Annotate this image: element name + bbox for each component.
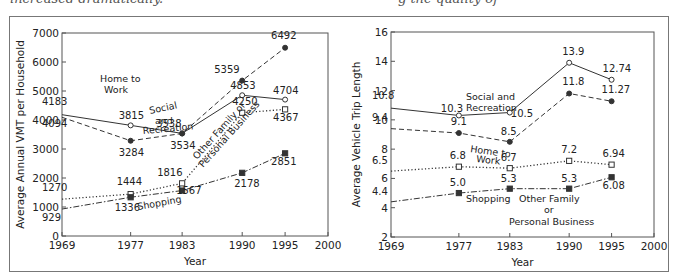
data-marker [456,164,461,169]
x-tick-label: 1990 [229,239,256,251]
data-value-label: 4183 [42,96,67,107]
data-marker [567,60,572,65]
x-tick-label: 2000 [641,240,668,252]
x-tick-label: 1969 [49,239,76,251]
y-tick-label: 3000 [32,143,59,155]
x-tick-label: 1977 [446,240,473,252]
data-marker [567,158,572,163]
data-value-label: 5.3 [501,173,517,184]
chart-vehicle-trip-length: 246810121416196919771983199019952000Year… [350,26,667,268]
data-marker [456,190,461,195]
y-axis-title: Average Annual VMT per Household [14,40,26,229]
data-marker [507,166,512,171]
label-recreation: Recreation [466,102,517,113]
data-value-label: 3534 [170,140,195,151]
data-value-label: 2851 [271,156,296,167]
data-value-label: 9.4 [372,112,388,123]
data-marker [128,123,133,128]
data-marker [609,162,614,167]
data-marker [567,186,572,191]
data-value-label: 1816 [157,167,182,178]
data-value-label: 11.27 [602,84,631,95]
data-value-label: 1270 [42,182,67,193]
data-marker [283,45,288,50]
data-marker [128,138,133,143]
data-value-label: 10.3 [441,103,463,114]
data-value-label: 4094 [42,118,67,129]
data-value-label: 2178 [234,178,259,189]
data-marker [283,97,288,102]
data-value-label: 5.3 [561,173,577,184]
y-tick-label: 16 [375,26,389,38]
x-tick-label: 2000 [315,239,342,251]
y-tick-label: 4 [381,202,388,214]
data-marker [507,139,512,144]
label-social-3: Recreation [142,121,194,136]
x-tick-label: 1977 [117,239,144,251]
data-value-label: 6.94 [603,148,625,159]
data-marker [609,77,614,82]
data-value-label: 7.2 [561,144,577,155]
x-axis-title: Year [510,256,534,268]
y-tick-label: 6000 [32,56,59,68]
label-social-1: Social [148,99,178,116]
data-value-label: 5359 [214,64,239,75]
data-marker [240,78,245,83]
label-social-and: Social and [466,91,515,102]
data-value-label: 3284 [119,147,144,158]
x-tick-label: 1983 [169,239,196,251]
x-tick-label: 1983 [496,240,523,252]
data-value-label: 13.9 [562,46,584,57]
label-or: or [544,204,554,215]
label-shopping-r: Shopping [466,193,511,204]
data-marker [507,186,512,191]
x-axis-title: Year [183,255,207,267]
y-tick-label: 6 [381,172,388,184]
data-value-label: 5.0 [450,177,466,188]
data-value-label: 6.5 [372,155,388,166]
data-value-label: 11.8 [562,76,584,87]
data-marker [456,131,461,136]
data-marker [609,175,614,180]
data-value-label: 6.08 [603,180,625,191]
plot-area [62,33,328,236]
label-home-to-work-1: Home to [100,73,141,84]
data-value-label: 6.8 [450,150,466,161]
data-value-label: 10.8 [372,90,394,101]
label-shopping: Shopping [136,193,182,212]
data-value-label: 12.74 [603,63,632,74]
data-value-label: 1444 [117,176,142,187]
chart-vmt-per-household: 0100020003000400050006000700019691977198… [14,27,341,267]
data-marker [567,91,572,96]
y-tick-label: 7000 [32,27,59,39]
x-tick-label: 1995 [272,239,299,251]
data-value-label: 3815 [119,110,144,121]
label-other-2: Personal Business [196,99,261,170]
x-tick-label: 1969 [378,240,405,252]
x-tick-label: 1995 [598,240,625,252]
data-marker [282,107,287,112]
data-value-label: 9.1 [451,116,467,127]
data-value-label: 4.4 [372,186,388,197]
label-personal-business: Personal Business [509,216,594,227]
data-marker [609,99,614,104]
y-tick-label: 8 [381,143,388,155]
data-marker [128,195,133,200]
data-value-label: 929 [42,212,61,223]
data-value-label: 8.5 [501,126,517,137]
x-tick-label: 1990 [556,240,583,252]
figure-svg: 0100020003000400050006000700019691977198… [0,0,677,278]
data-value-label: 6492 [271,30,296,41]
label-work: Work [476,153,502,167]
data-value-label: 4367 [273,112,298,123]
data-value-label: 4704 [273,85,298,96]
y-tick-label: 14 [375,55,389,67]
data-marker [240,170,245,175]
label-other-family: Other Family [519,193,580,204]
data-marker [282,151,287,156]
y-axis-title: Average Vehicle Trip Length [350,62,362,208]
label-home-to-work-2: Work [104,84,129,95]
